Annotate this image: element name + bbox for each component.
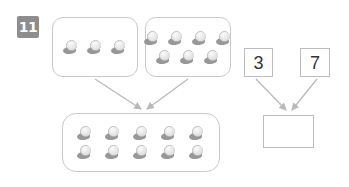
counter-bean-icon bbox=[133, 126, 149, 140]
counter-bean-icon bbox=[87, 40, 103, 54]
counter-row bbox=[77, 145, 205, 159]
answer-input-box[interactable] bbox=[263, 115, 314, 148]
counter-bean-icon bbox=[161, 126, 177, 140]
question-number-badge: 11 bbox=[17, 16, 39, 38]
sum-group-box bbox=[62, 113, 220, 172]
counter-bean-icon bbox=[111, 40, 127, 54]
counter-grid bbox=[53, 18, 137, 76]
arrow-three-to-answer bbox=[256, 79, 286, 110]
second-addend-group-box bbox=[145, 17, 231, 77]
counter-bean-icon bbox=[144, 31, 160, 45]
first-addend-number-box: 3 bbox=[244, 48, 273, 77]
counter-row bbox=[63, 40, 127, 54]
arrow-right-group-to-total bbox=[147, 79, 188, 109]
arrow-seven-to-answer bbox=[292, 79, 317, 110]
arrow-left-group-to-total bbox=[95, 79, 141, 109]
worksheet-canvas: 11 bbox=[0, 0, 349, 187]
counter-grid bbox=[63, 114, 219, 171]
second-addend-number-box: 7 bbox=[300, 48, 330, 77]
first-addend-group-box bbox=[52, 17, 138, 77]
counter-bean-icon bbox=[105, 145, 121, 159]
counter-bean-icon bbox=[77, 145, 93, 159]
counter-bean-icon bbox=[156, 50, 172, 64]
counter-row bbox=[144, 31, 232, 45]
counter-bean-icon bbox=[161, 145, 177, 159]
counter-bean-icon bbox=[192, 31, 208, 45]
counter-row bbox=[156, 50, 220, 64]
counter-bean-icon bbox=[189, 126, 205, 140]
counter-grid bbox=[146, 18, 230, 76]
counter-bean-icon bbox=[77, 126, 93, 140]
counter-bean-icon bbox=[189, 145, 205, 159]
counter-bean-icon bbox=[105, 126, 121, 140]
counter-bean-icon bbox=[180, 50, 196, 64]
counter-bean-icon bbox=[168, 31, 184, 45]
counter-bean-icon bbox=[133, 145, 149, 159]
counter-bean-icon bbox=[63, 40, 79, 54]
counter-bean-icon bbox=[204, 50, 220, 64]
counter-bean-icon bbox=[216, 31, 232, 45]
counter-row bbox=[77, 126, 205, 140]
